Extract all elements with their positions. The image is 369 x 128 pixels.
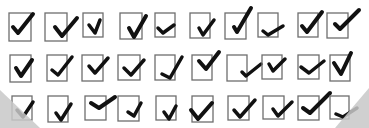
checkmark-icon (124, 60, 144, 75)
checkmark-icon (191, 103, 212, 119)
box-outline (190, 13, 210, 38)
box-outline (118, 96, 139, 121)
checked-box (258, 13, 283, 37)
box-outline (227, 55, 247, 81)
checkmark-icon (242, 64, 261, 76)
checkmark-icon (13, 14, 33, 33)
checkmark-icon (89, 58, 108, 73)
checked-box (227, 55, 261, 81)
checked-box (298, 12, 322, 37)
checked-box (48, 96, 71, 122)
checkmark-icon (302, 12, 322, 32)
checkmark-icon (129, 16, 146, 37)
checked-box (9, 13, 33, 41)
checked-box (327, 10, 359, 38)
checkmark-icon (164, 106, 176, 119)
checkmark-icon (56, 104, 71, 120)
checked-box (155, 13, 175, 37)
checked-box (298, 93, 330, 120)
checkbox-grid-photo (0, 0, 369, 128)
corner-shadow-left (0, 90, 40, 128)
checkmark-icon (263, 26, 283, 35)
checked-box (45, 13, 77, 41)
checkmark-icon (234, 100, 255, 117)
checkmark-icon (89, 20, 100, 33)
corner-shadow-right (335, 88, 369, 128)
checkmark-icon (199, 20, 214, 35)
checked-box (10, 55, 32, 82)
checkmark-icon (334, 53, 351, 74)
checked-box (118, 96, 141, 121)
checkmark-icon (52, 57, 72, 75)
checked-box (190, 13, 214, 38)
checkmark-icon (234, 8, 251, 32)
checkmark-icon (158, 25, 174, 33)
checkmark-icon (162, 57, 182, 78)
checkmark-icon (91, 97, 115, 108)
checkmark-icon (16, 60, 32, 76)
checked-box (262, 55, 285, 79)
checkmark-icon (301, 61, 324, 73)
checked-box (191, 96, 213, 122)
box-outline (83, 13, 103, 37)
checkmark-icon (55, 18, 77, 36)
checked-box (82, 55, 108, 81)
checked-box (120, 13, 146, 39)
checked-box (47, 55, 72, 81)
checked-box (83, 13, 103, 37)
checked-box (192, 52, 219, 80)
checked-box (263, 96, 292, 119)
checked-box (225, 8, 251, 39)
checked-box (298, 55, 324, 79)
checked-box (85, 96, 115, 120)
checked-box (118, 55, 144, 80)
checked-box (228, 96, 255, 120)
checkmark-icon (273, 102, 292, 116)
checked-box (155, 55, 182, 80)
checked-box (330, 53, 351, 81)
checked-box (156, 96, 176, 120)
